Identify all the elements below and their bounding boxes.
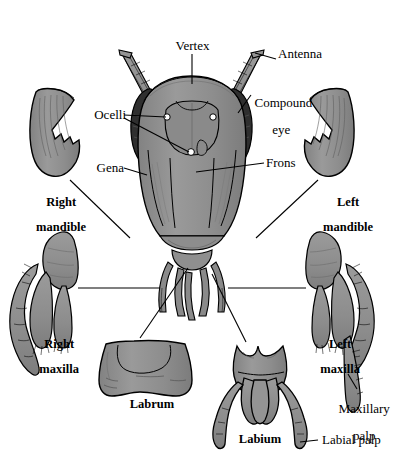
label-gena: Gena [88, 161, 124, 174]
label-labial-palp: Labial palp [322, 433, 396, 446]
label-right-maxilla-line2: maxilla [39, 362, 79, 376]
head-capsule [138, 76, 246, 236]
labrum [99, 341, 192, 396]
antennal-socket-left [197, 140, 207, 155]
label-vertex: Vertex [170, 39, 215, 52]
label-right-mandible: Right mandible [16, 183, 100, 234]
label-ocelli: Ocelli [86, 108, 126, 121]
label-right-mandible-line1: Right [46, 195, 76, 209]
label-compound-eye-line2: eye [272, 122, 290, 137]
label-left-maxilla-line2: maxilla [320, 362, 360, 376]
label-right-maxilla: Right maxilla [16, 325, 96, 376]
label-left-maxilla-line1: Left [329, 337, 351, 351]
label-maxillary-palp-line1: Maxillary [339, 401, 390, 416]
label-right-mandible-line2: mandible [36, 220, 86, 234]
anatomy-figure: Vertex Antenna Compound eye Ocelli Gena … [0, 0, 400, 466]
label-compound-eye: Compound eye [248, 83, 308, 136]
label-left-maxilla: Left maxilla [297, 325, 377, 376]
label-labrum: Labrum [112, 398, 192, 411]
label-left-mandible: Left mandible [303, 183, 387, 234]
ocellus-left [210, 114, 216, 120]
label-labium: Labium [222, 433, 298, 446]
label-left-mandible-line2: mandible [323, 220, 373, 234]
label-right-maxilla-line1: Right [44, 337, 74, 351]
label-left-mandible-line1: Left [337, 195, 359, 209]
label-frons: Frons [266, 156, 310, 169]
label-antenna: Antenna [278, 47, 340, 60]
label-compound-eye-line1: Compound [255, 95, 313, 110]
